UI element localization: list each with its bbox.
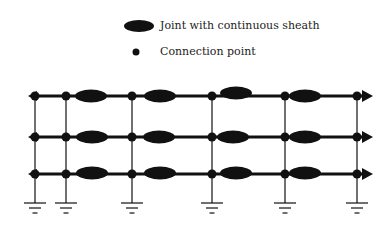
cable-network [24, 87, 373, 214]
right-arrow-icon [362, 131, 373, 143]
connection-point-icon [281, 133, 290, 142]
connection-point-icon [62, 170, 71, 179]
connection-point-icon [31, 92, 40, 101]
joint-icon [220, 87, 252, 100]
legend-connection-label: Connection point [160, 46, 256, 58]
connection-point-icon [128, 170, 137, 179]
legend-joint-icon [124, 20, 154, 32]
right-arrow-icon [362, 90, 373, 102]
bonding-diagram [0, 0, 392, 229]
connection-point-icon [62, 92, 71, 101]
connection-point-icon [353, 133, 362, 142]
legend-connection-point-icon [133, 49, 140, 56]
connection-point-icon [208, 170, 217, 179]
connection-point-icon [62, 133, 71, 142]
joint-icon [76, 167, 108, 180]
joint-icon [144, 90, 176, 103]
joint-icon [217, 131, 249, 144]
connection-point-icon [128, 92, 137, 101]
connection-point-icon [208, 92, 217, 101]
connection-point-icon [281, 170, 290, 179]
joint-icon [289, 131, 321, 144]
joint-icon [220, 167, 252, 180]
connection-point-icon [128, 133, 137, 142]
right-arrow-icon [362, 168, 373, 180]
joint-icon [76, 131, 108, 144]
joint-icon [143, 131, 175, 144]
joint-icon [289, 167, 321, 180]
legend-joint-label: Joint with continuous sheath [160, 20, 320, 32]
connection-point-icon [353, 170, 362, 179]
joint-icon [144, 167, 176, 180]
connection-point-icon [31, 133, 40, 142]
connection-point-icon [208, 133, 217, 142]
joint-icon [75, 90, 107, 103]
joint-icon [289, 90, 321, 103]
connection-point-icon [281, 92, 290, 101]
connection-point-icon [353, 92, 362, 101]
connection-point-icon [31, 170, 40, 179]
